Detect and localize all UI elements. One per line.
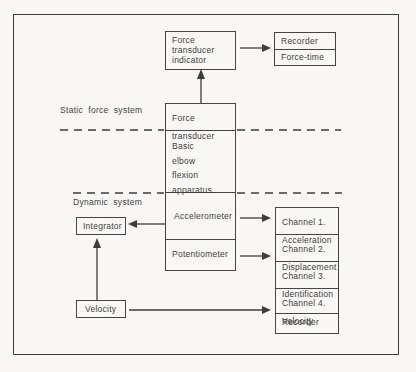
- recorder-label: Recorder: [281, 36, 318, 46]
- arrowhead-up-icon: [197, 69, 205, 79]
- arrowhead-right-icon: [262, 306, 271, 314]
- label-static-force-system: Static force system: [60, 105, 143, 115]
- box-recorder-force-time: Recorder Force-time: [274, 32, 336, 66]
- flow-diagram: Static force system Dynamic system Force…: [0, 0, 416, 372]
- box-instrument-column: Force transducer Basic elbow flexion app…: [165, 103, 236, 271]
- cell-channel-1-acceleration: Channel 1. Acceleration: [276, 208, 338, 234]
- cell-recorder: Recorder: [275, 33, 335, 49]
- potentiometer-label: Potentiometer: [172, 249, 228, 259]
- arrowhead-right-icon: [262, 214, 271, 222]
- velocity-label: Velocity: [85, 304, 116, 314]
- arrowhead-up-icon: [93, 238, 101, 248]
- cell-force-transducer: Force transducer: [166, 104, 235, 130]
- channel-recorder-label: Recorder: [282, 317, 319, 327]
- integrator-label: Integrator: [83, 221, 122, 231]
- cell-potentiometer: Potentiometer: [166, 239, 235, 267]
- box-velocity: Velocity: [76, 300, 126, 318]
- arrowhead-left-icon: [128, 220, 137, 228]
- box-integrator: Integrator: [76, 217, 126, 235]
- label-dynamic-system: Dynamic system: [73, 197, 142, 207]
- box-force-transducer-indicator: Force transducer indicator: [165, 31, 236, 70]
- force-transducer-indicator-label: Force transducer indicator: [166, 32, 235, 65]
- arrowhead-right-icon: [262, 44, 271, 52]
- force-time-label: Force-time: [281, 52, 324, 62]
- cell-force-time: Force-time: [275, 49, 335, 64]
- apparatus-label: Basic elbow flexion apparatus: [172, 141, 212, 195]
- arrowhead-right-icon: [262, 252, 271, 260]
- cell-accelerometer: Accelerometer: [166, 192, 235, 239]
- accelerometer-label: Accelerometer: [174, 211, 232, 221]
- box-channel-column: Channel 1. Acceleration Channel 2. Displ…: [275, 207, 339, 334]
- force-transducer-label: Force transducer: [172, 113, 215, 141]
